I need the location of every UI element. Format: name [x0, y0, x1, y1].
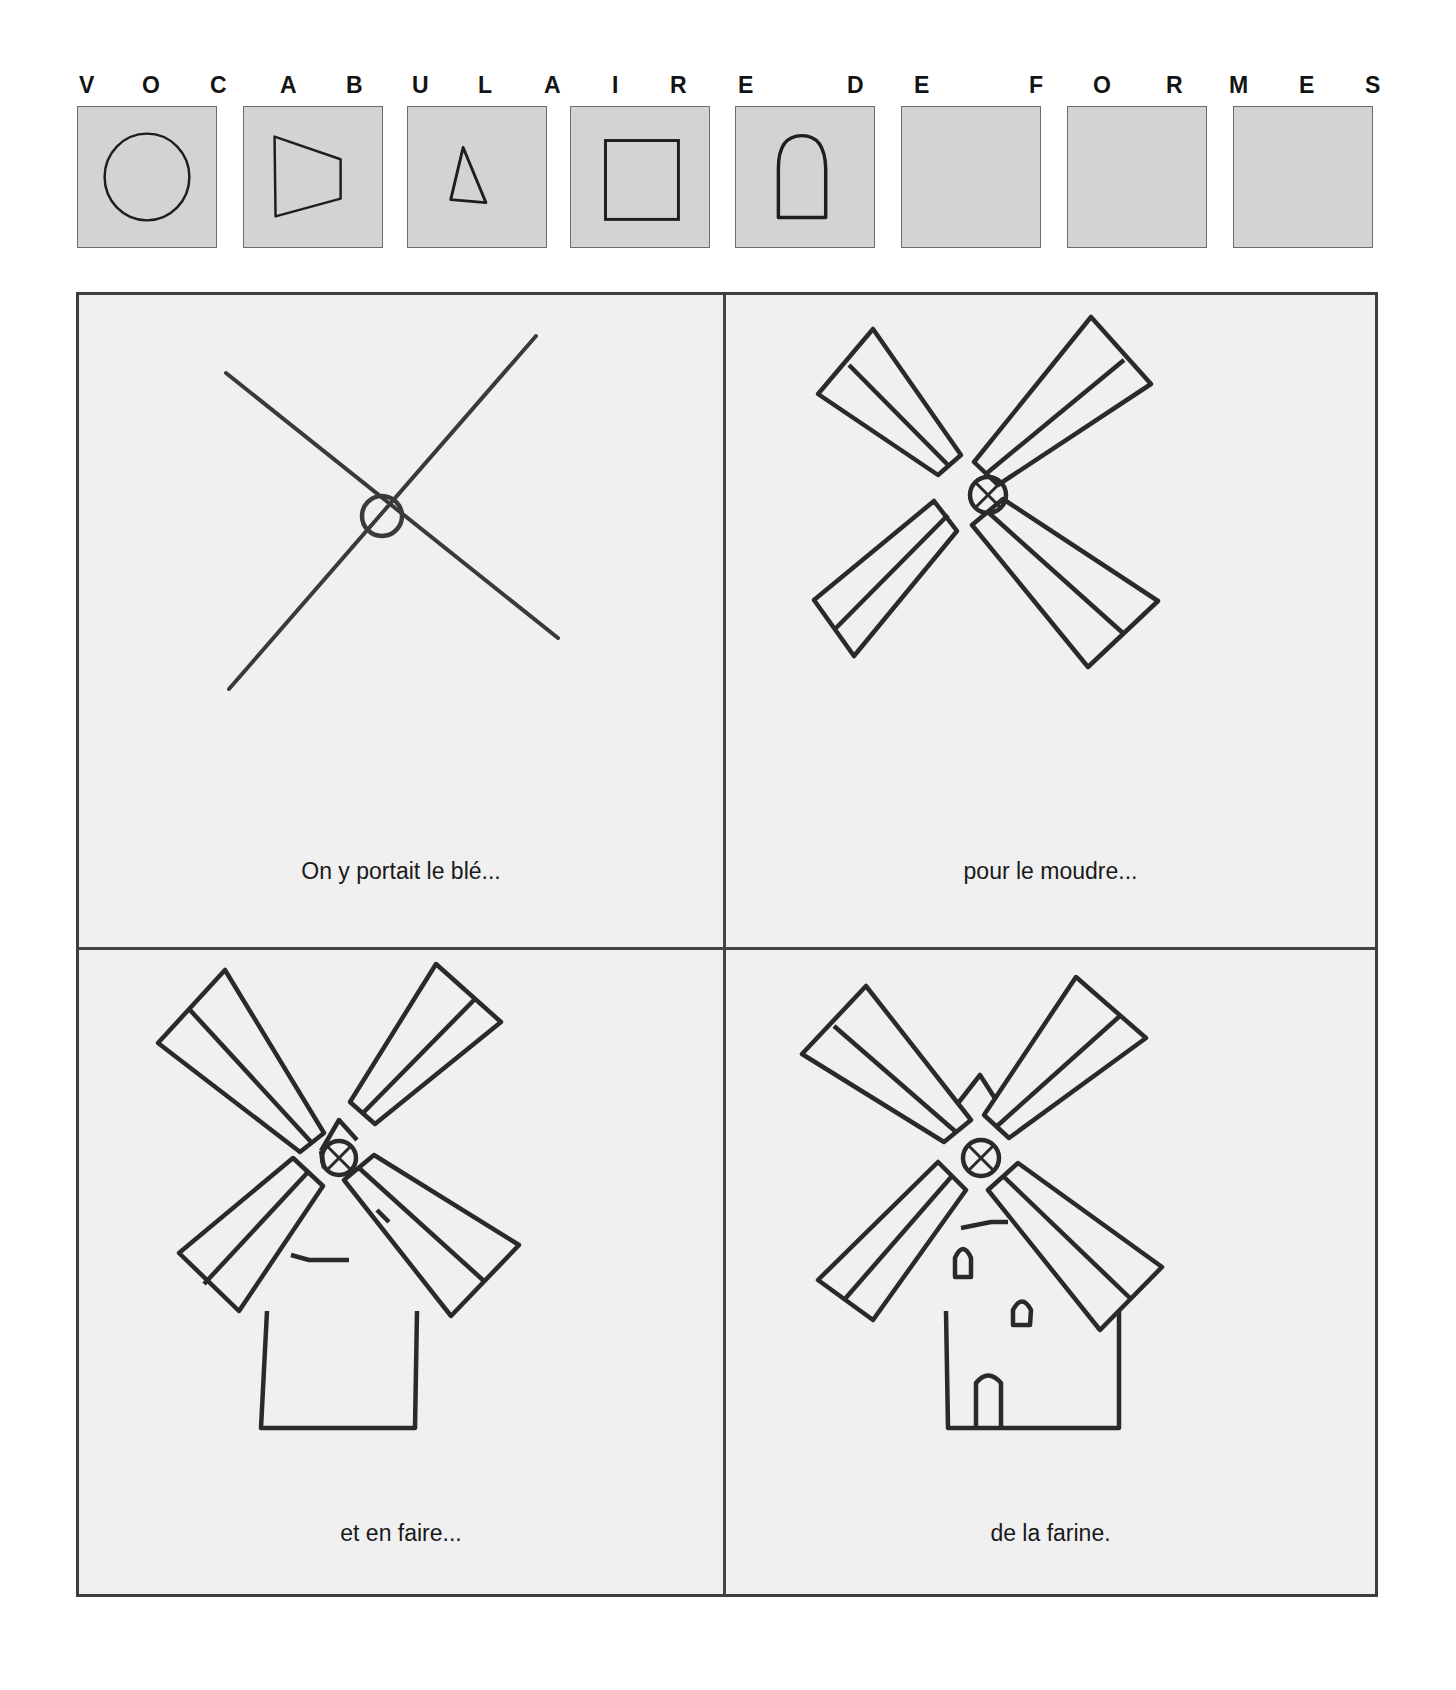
windmill-step-2-drawing: [726, 295, 1375, 947]
shape-tile-empty: [1067, 106, 1207, 248]
windmill-step-1-drawing: [79, 295, 723, 947]
drawing-steps-grid: On y portait le blé... pour le: [76, 292, 1378, 1597]
title-letter: E: [738, 70, 753, 100]
step-caption-4: de la farine.: [726, 1520, 1375, 1547]
step-caption-3: et en faire...: [79, 1520, 723, 1547]
title-letter: D: [847, 70, 864, 100]
step-panel-2: pour le moudre...: [726, 295, 1375, 947]
title-letter: R: [670, 70, 687, 100]
windmill-step-3-drawing: [79, 950, 723, 1594]
title-letter: A: [280, 70, 297, 100]
square-icon: [571, 107, 709, 247]
title-letter: M: [1229, 70, 1248, 100]
title-letter: U: [412, 70, 429, 100]
shape-tile-trapezoid: [243, 106, 383, 248]
arch-icon: [736, 107, 874, 247]
windmill-step-4-drawing: [726, 950, 1375, 1594]
shape-tile-square: [570, 106, 710, 248]
shape-tile-empty: [901, 106, 1041, 248]
shape-tile-circle: [77, 106, 217, 248]
step-panel-3: et en faire...: [79, 950, 723, 1594]
circle-icon: [78, 107, 216, 247]
shape-tile-arch: [735, 106, 875, 248]
title-letter: O: [142, 70, 160, 100]
shape-tile-empty: [1233, 106, 1373, 248]
title-letter: F: [1029, 70, 1043, 100]
step-panel-1: On y portait le blé...: [79, 295, 723, 947]
trapezoid-icon: [244, 107, 382, 247]
page-title: VOCABULAIREDEFORMES: [0, 70, 1456, 104]
title-letter: V: [79, 70, 94, 100]
triangle-icon: [408, 107, 546, 247]
title-letter: S: [1365, 70, 1380, 100]
shape-tile-triangle: [407, 106, 547, 248]
step-caption-2: pour le moudre...: [726, 858, 1375, 885]
title-letter: O: [1093, 70, 1111, 100]
title-letter: E: [914, 70, 929, 100]
grid-vertical-divider: [723, 295, 726, 1594]
title-letter: C: [210, 70, 227, 100]
title-letter: R: [1166, 70, 1183, 100]
title-letter: B: [346, 70, 363, 100]
step-caption-1: On y portait le blé...: [79, 858, 723, 885]
step-panel-4: de la farine.: [726, 950, 1375, 1594]
grid-horizontal-divider: [79, 947, 1375, 950]
title-letter: I: [612, 70, 618, 100]
title-letter: L: [478, 70, 492, 100]
title-letter: E: [1299, 70, 1314, 100]
title-letter: A: [544, 70, 561, 100]
